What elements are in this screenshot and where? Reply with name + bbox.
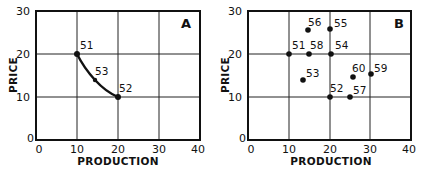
- y-tick-0: 0: [27, 132, 34, 145]
- x-axis-label: PRODUCTION: [77, 155, 158, 167]
- x-tick-0: 0: [36, 143, 43, 156]
- point-label-57: 57: [353, 84, 366, 96]
- point-label-53: 53: [306, 67, 319, 79]
- data-point-57: [347, 94, 353, 100]
- data-point-54: [328, 51, 334, 57]
- data-point-53: [300, 77, 306, 83]
- point-label-58: 58: [310, 39, 323, 51]
- point-label-59: 59: [374, 62, 387, 74]
- point-label-60: 60: [352, 62, 365, 74]
- panel-letter-a: A: [181, 16, 191, 31]
- data-point-55: [327, 26, 333, 32]
- grid-lines: [36, 11, 200, 140]
- chart-b-svg: 30 20 10 0 0 10 20 30 40 PRODUCTION PRIC…: [211, 0, 422, 174]
- data-point-51: [286, 51, 292, 57]
- panel-letter-b: B: [394, 16, 404, 31]
- point-label-52: 52: [330, 82, 343, 94]
- point-label-51: 51: [292, 39, 305, 51]
- point-label-51: 51: [80, 39, 93, 51]
- point-label-56: 56: [308, 16, 322, 28]
- data-point-52: [327, 94, 333, 100]
- y-tick-30: 30: [228, 5, 242, 18]
- x-tick-40: 40: [191, 143, 205, 156]
- data-point-59: [368, 71, 374, 77]
- data-point-60: [350, 74, 356, 80]
- data-point-53: [93, 78, 97, 82]
- point-label-52: 52: [119, 82, 132, 94]
- point-label-54: 54: [335, 39, 349, 51]
- x-axis-label: PRODUCTION: [290, 155, 371, 167]
- y-tick-30: 30: [16, 5, 30, 18]
- data-point-51: [74, 51, 80, 57]
- y-axis-label: PRICE: [7, 57, 19, 93]
- y-axis-label: PRICE: [219, 57, 231, 93]
- chart-a-svg: 30 20 10 0 0 10 20 30 40 PRODUCTION PRIC…: [0, 0, 211, 174]
- x-tick-40: 40: [402, 143, 416, 156]
- y-tick-0: 0: [239, 132, 246, 145]
- x-tick-0: 0: [248, 143, 255, 156]
- data-point-56: [305, 27, 311, 33]
- point-label-55: 55: [334, 17, 347, 29]
- chart-panel-b: 30 20 10 0 0 10 20 30 40 PRODUCTION PRIC…: [211, 0, 422, 174]
- point-label-53: 53: [95, 65, 108, 77]
- data-point-52: [115, 94, 121, 100]
- data-point-58: [306, 51, 312, 57]
- chart-panel-a: 30 20 10 0 0 10 20 30 40 PRODUCTION PRIC…: [0, 0, 211, 174]
